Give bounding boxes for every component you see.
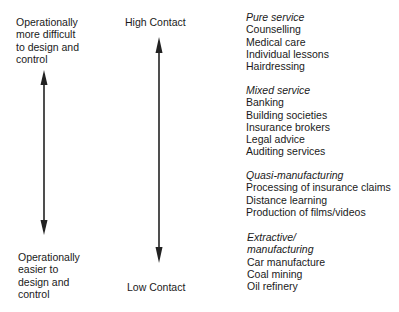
list-item: Banking [246,96,330,108]
list-item: Coal mining [247,268,325,280]
list-item: Insurance brokers [246,121,330,133]
list-item: Legal advice [246,133,330,145]
high-contact-label: High Contact [125,16,186,28]
label-line: easier to [18,263,80,275]
label-line: to design and [16,41,79,53]
list-item: Processing of insurance claims [246,181,391,193]
label-line: control [16,53,79,65]
label-line: more difficult [16,28,79,40]
list-item: Car manufacture [247,256,325,268]
arrow-up-head-icon [156,37,163,53]
category-mixed-service: Mixed service Banking Building societies… [246,84,330,158]
label-line: control [18,288,80,300]
category-title: Mixed service [246,84,330,96]
low-contact-label: Low Contact [127,281,185,293]
arrow-down-head-icon [41,220,48,235]
difficulty-arrow [41,70,48,235]
arrow-down-head-icon [156,247,163,263]
list-item: Building societies [246,109,330,121]
category-quasi-manufacturing: Quasi-manufacturing Processing of insura… [246,169,391,218]
category-title: Quasi-manufacturing [246,169,391,181]
list-item: Individual lessons [246,48,329,60]
arrow-up-head-icon [41,70,48,85]
difficult-label: Operationally more difficult to design a… [16,16,79,65]
category-title: manufacturing [247,243,325,255]
list-item: Medical care [246,36,329,48]
label-line: design and [18,276,80,288]
label-line: Operationally [16,16,79,28]
list-item: Oil refinery [247,280,325,292]
list-item: Distance learning [246,194,391,206]
category-extractive-manufacturing: Extractive/ manufacturing Car manufactur… [247,231,325,292]
list-item: Production of films/videos [246,206,391,218]
category-pure-service: Pure service Counselling Medical care In… [246,11,329,72]
contact-arrow [156,37,163,263]
category-title: Extractive/ [247,231,325,243]
category-title: Pure service [246,11,329,23]
list-item: Counselling [246,23,329,35]
easier-label: Operationally easier to design and contr… [18,251,80,300]
list-item: Auditing services [246,145,330,157]
label-line: Operationally [18,251,80,263]
list-item: Hairdressing [246,60,329,72]
